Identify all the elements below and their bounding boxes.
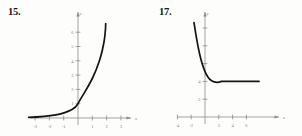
chart-17-y-tick-labels: 2 4 bbox=[198, 79, 201, 102]
chart-15-ytick-4: 4 bbox=[71, 59, 74, 64]
chart-15-y-tick-labels: 1 2 3 4 5 6 bbox=[71, 30, 74, 107]
chart-15-xtick--2: -2 bbox=[47, 124, 52, 129]
chart-17-x-tick-labels: -4 -2 2 4 6 bbox=[175, 123, 248, 128]
chart-17-xtick--4: -4 bbox=[175, 123, 180, 128]
chart-17-svg: -4 -2 2 4 6 2 4 bbox=[151, 0, 302, 136]
chart-15-x-axis-arrow bbox=[127, 116, 132, 119]
chart-17-ytick-4: 4 bbox=[198, 79, 201, 84]
problem-15: 15. -3 -2 bbox=[0, 0, 151, 136]
chart-15-xtick-1: 1 bbox=[91, 124, 94, 129]
chart-17-xtick-6: 6 bbox=[245, 123, 248, 128]
chart-17-x-axis-arrow bbox=[275, 115, 280, 118]
problem-17-plot: -4 -2 2 4 6 2 4 bbox=[151, 0, 302, 136]
chart-15-x-axis-label: x bbox=[134, 116, 137, 121]
problem-17: 17. -4 -2 bbox=[151, 0, 302, 136]
chart-15-curve bbox=[29, 24, 106, 118]
chart-15-xtick-2: 2 bbox=[105, 124, 108, 129]
chart-17-y-axis-label: y bbox=[206, 11, 210, 16]
chart-15-y-axis-label: y bbox=[79, 11, 83, 16]
chart-17-ytick-2: 2 bbox=[198, 97, 201, 102]
chart-15-xtick--3: -3 bbox=[33, 124, 38, 129]
chart-15-ytick-2: 2 bbox=[71, 87, 74, 92]
chart-15-svg: -3 -2 -1 1 2 3 1 2 bbox=[0, 0, 151, 136]
chart-15-ytick-3: 3 bbox=[71, 73, 74, 78]
chart-15-xtick--1: -1 bbox=[62, 124, 67, 129]
chart-17-xtick--2: -2 bbox=[189, 123, 194, 128]
chart-15-xtick-3: 3 bbox=[120, 124, 123, 129]
chart-17-xtick-4: 4 bbox=[231, 123, 234, 128]
chart-17-curve bbox=[194, 23, 259, 83]
chart-17-x-axis-label: x bbox=[282, 115, 285, 120]
chart-15-ytick-5: 5 bbox=[71, 44, 74, 49]
problem-15-plot: -3 -2 -1 1 2 3 1 2 bbox=[0, 0, 151, 136]
chart-15-ytick-6: 6 bbox=[71, 30, 74, 35]
chart-17-xtick-2: 2 bbox=[218, 123, 221, 128]
worksheet-page: 15. -3 -2 bbox=[0, 0, 302, 136]
chart-15-ytick-1: 1 bbox=[71, 101, 74, 106]
